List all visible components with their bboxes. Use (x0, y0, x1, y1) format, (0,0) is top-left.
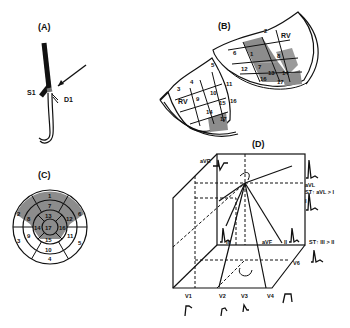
lead-avr: aVR (200, 158, 211, 164)
panel-d-ecg-cube: aVR aVL ST↑ aVL > I I III aVF II ST↑ III… (0, 0, 350, 328)
lead-v4: V4 (267, 293, 275, 299)
ecg-avr-icon (213, 160, 228, 170)
note-st-iii: ST↑ III > II (309, 239, 335, 245)
lead-v6: V6 (293, 260, 300, 266)
lead-avl: aVL (305, 182, 316, 188)
lead-avf: aVF (262, 239, 273, 245)
lead-v1: V1 (185, 293, 192, 299)
note-st-avl: ST↑ aVL > I (305, 189, 335, 195)
lead-ii: II (284, 239, 288, 245)
lead-v2: V2 (219, 293, 226, 299)
lead-v3: V3 (241, 293, 248, 299)
lead-iii: III (226, 239, 231, 245)
lead-i: I (305, 198, 307, 204)
